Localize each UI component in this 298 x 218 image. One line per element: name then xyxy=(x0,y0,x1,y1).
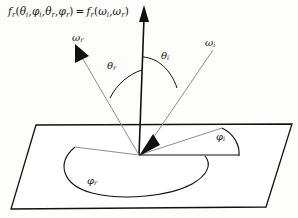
equation-rhs-arg0: ω xyxy=(98,5,107,17)
theta-r-zenith-arc xyxy=(110,70,142,98)
label-omega-i-symbol: ω xyxy=(205,37,213,48)
equation-rhs-arg1: ω xyxy=(113,5,122,17)
label-omega-i-sub: i xyxy=(213,41,215,49)
label-phi-i-symbol: φ xyxy=(216,131,223,142)
label-omega-r-symbol: ω xyxy=(72,32,80,43)
label-phi-r: φr xyxy=(87,176,97,187)
label-theta-r: θr xyxy=(107,61,116,72)
label-phi-i: φi xyxy=(216,132,225,143)
equation-lhs-arg3: φ xyxy=(58,5,65,17)
label-omega-r-sub: r xyxy=(80,36,83,44)
label-omega-i: ωi xyxy=(205,38,215,49)
label-omega-r: ωr xyxy=(72,33,83,44)
label-phi-r-sub: r xyxy=(94,179,97,187)
label-phi-i-sub: i xyxy=(223,135,225,143)
label-theta-r-sub: r xyxy=(113,64,116,72)
brdf-equation: fr(θi,φi,θr,φr)=fr(ωi,ωr) xyxy=(8,6,129,19)
theta-i-zenith-arc xyxy=(143,57,177,88)
equation-equals: = xyxy=(74,5,87,17)
figure-canvas: fr(θi,φi,θr,φr)=fr(ωi,ωr) ωr ωi θr θi φi… xyxy=(0,0,298,218)
omega-r-arrowhead xyxy=(75,44,89,63)
label-theta-i: θi xyxy=(161,51,169,62)
brdf-diagram xyxy=(0,0,298,218)
label-theta-i-sub: i xyxy=(167,54,169,62)
label-phi-r-symbol: φ xyxy=(87,175,94,186)
surface-normal-arrowhead xyxy=(139,5,149,22)
